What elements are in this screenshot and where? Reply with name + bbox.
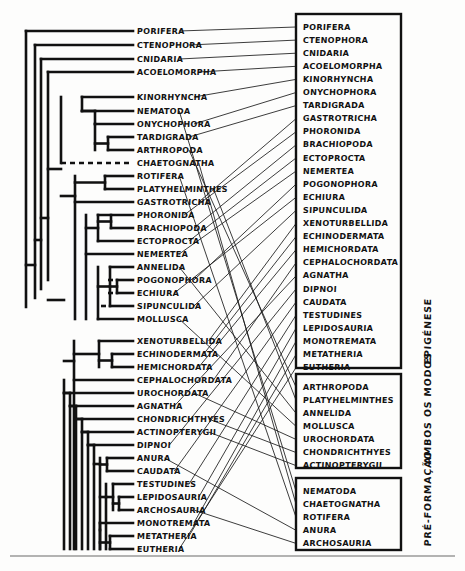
box-item-agnatha: AGNATHA [303,270,349,280]
taxon-label-sipunculida: SIPUNCULIDA [137,301,202,311]
box-item-kinorhyncha: KINORHYNCHA [303,74,374,84]
taxon-label-acoelomorpha: ACOELOMORPHA [137,67,217,77]
taxon-label-cnidaria: CNIDARIA [137,54,184,64]
taxon-label-caudata: CAUDATA [137,466,181,476]
taxon-label-nematoda: NEMATODA [137,106,191,116]
taxon-label-eutheria: EUTHERIA [137,544,185,554]
box-item-nematoda: NEMATODA [303,486,357,496]
box-item-cephalochordata: CEPHALOCHORDATA [303,257,399,267]
box-item-anura: ANURA [303,525,337,535]
box-item-actinopterygii: ACTINOPTERYGII [303,460,383,470]
box-item-ectoprocta: ECTOPROCTA [303,153,366,163]
box-item-onychophora: ONYCHOPHORA [303,87,377,97]
taxon-label-pogonophora: POGONOPHORA [137,275,212,285]
box-item-arthropoda: ARTHROPODA [303,382,369,392]
taxon-label-porifera: PORIFERA [137,26,185,36]
box-item-xenoturbellida: XENOTURBELLIDA [303,218,389,228]
taxon-label-xenoturbellida: XENOTURBELLIDA [137,336,223,346]
box-item-platyhelminthes: PLATYHELMINTHES [303,395,394,405]
box-item-rotifera: ROTIFERA [303,512,351,522]
taxon-label-annelida: ANNELIDA [137,262,186,272]
taxon-label-anura: ANURA [137,453,171,463]
box-item-brachiopoda: BRACHIOPODA [303,139,373,149]
box-item-nemertea: NEMERTEA [303,166,355,176]
taxon-label-tardigrada: TARDIGRADA [137,132,199,142]
taxon-label-archosauria: ARCHOSAURIA [137,505,206,515]
taxon-label-brachiopoda: BRACHIOPODA [137,223,207,233]
box-side-label-box-pre-formacao: PRÉ-FORMAÇÃO [422,451,433,547]
taxon-label-arthropoda: ARTHROPODA [137,145,203,155]
taxon-label-rotifera: ROTIFERA [137,171,185,181]
box-item-echiura: ECHIURA [303,192,346,202]
box-item-ctenophora: CTENOPHORA [303,35,369,45]
box-item-chaetognatha: CHAETOGNATHA [303,499,381,509]
taxon-label-actinopterygii: ACTINOPTERYGII [137,427,217,437]
taxon-label-platyhelminthes: PLATYHELMINTHES [137,184,228,194]
taxon-label-chondrichthyes: CHONDRICHTHYES [137,414,226,424]
taxon-label-agnatha: AGNATHA [137,401,183,411]
taxon-label-dipnoi: DIPNOI [137,440,171,450]
box-item-echinodermata: ECHINODERMATA [303,231,385,241]
taxon-label-echinodermata: ECHINODERMATA [137,349,219,359]
box-item-phoronida: PHORONIDA [303,126,361,136]
box-item-dipnoi: DIPNOI [303,284,337,294]
box-item-acoelomorpha: ACOELOMORPHA [303,61,383,71]
box-item-urochordata: UROCHORDATA [303,434,375,444]
taxon-label-chaetognatha: CHAETOGNATHA [137,158,215,168]
taxon-label-phoronida: PHORONIDA [137,210,195,220]
box-item-eutheria: EUTHERIA [303,362,351,372]
box-item-porifera: PORIFERA [303,22,351,32]
box-item-mollusca: MOLLUSCA [303,421,355,431]
taxon-label-lepidosauria: LEPIDOSAURIA [137,492,208,502]
box-item-cnidaria: CNIDARIA [303,48,350,58]
box-side-label-box-ambos-os-modos: AMBOS OS MODOS [422,352,433,465]
taxon-label-onychophora: ONYCHOPHORA [137,119,211,129]
box-item-pogonophora: POGONOPHORA [303,179,378,189]
box-item-chondrichthyes: CHONDRICHTHYES [303,447,392,457]
taxon-label-cephalochordata: CEPHALOCHORDATA [137,375,233,385]
taxon-label-ctenophora: CTENOPHORA [137,40,203,50]
taxon-label-gastrotricha: GASTROTRICHA [137,197,212,207]
box-item-gastrotricha: GASTROTRICHA [303,113,378,123]
taxon-label-urochordata: UROCHORDATA [137,388,209,398]
taxon-label-kinorhyncha: KINORHYNCHA [137,92,208,102]
box-item-annelida: ANNELIDA [303,408,352,418]
taxon-label-nemertea: NEMERTEA [137,249,189,259]
taxon-label-ectoprocta: ECTOPROCTA [137,236,200,246]
box-item-lepidosauria: LEPIDOSAURIA [303,323,374,333]
taxon-label-monotremata: MONOTREMATA [137,518,211,528]
taxon-label-testudines: TESTUDINES [137,479,197,489]
box-item-monotremata: MONOTREMATA [303,336,377,346]
box-item-metatheria: METATHERIA [303,349,363,359]
taxon-label-hemichordata: HEMICHORDATA [137,362,213,372]
taxon-label-metatheria: METATHERIA [137,531,197,541]
cladogram-figure: PORIFERACTENOPHORACNIDARIAACOELOMORPHAKI… [0,0,465,571]
box-item-archosauria: ARCHOSAURIA [303,538,372,548]
box-item-caudata: CAUDATA [303,297,347,307]
box-item-tardigrada: TARDIGRADA [303,100,365,110]
box-item-sipunculida: SIPUNCULIDA [303,205,368,215]
taxon-label-mollusca: MOLLUSCA [137,314,189,324]
category-boxes [0,0,465,571]
box-item-hemichordata: HEMICHORDATA [303,244,379,254]
taxon-label-echiura: ECHIURA [137,288,180,298]
box-item-testudines: TESTUDINES [303,310,363,320]
